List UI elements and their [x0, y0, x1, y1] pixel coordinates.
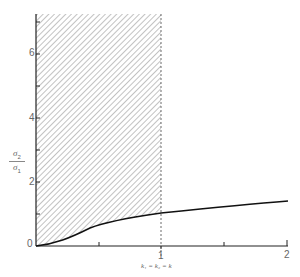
tick-label-y6: 6: [29, 47, 35, 58]
tick-label-y4: 4: [29, 112, 35, 123]
x-ticks: [99, 240, 287, 249]
x-axis-label: k₁ = k₂ = k: [141, 262, 172, 270]
tick-label-x2: 2: [284, 249, 290, 260]
tick-label-y2: 2: [29, 176, 35, 187]
tick-label-x1: 1: [158, 250, 164, 261]
tick-label-x0: 0: [27, 238, 33, 249]
y-axis-label: σ2 σ1: [9, 148, 25, 174]
chart-canvas: [0, 0, 300, 277]
hatched-region: [36, 14, 161, 246]
